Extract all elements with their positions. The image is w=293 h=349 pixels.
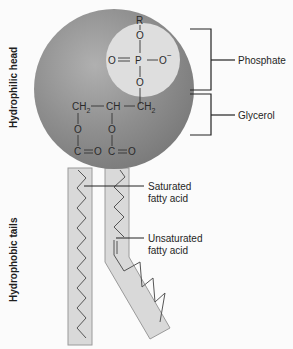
r-group: R [136, 15, 143, 26]
phospholipid-diagram: R O O P O − O CH2 CH CH2 O O C O C O Pho… [0, 0, 293, 349]
phosphate-bracket [190, 29, 235, 90]
oxygen-upper: O [136, 30, 144, 41]
ester-oxygen-2: O [108, 124, 116, 135]
glycerol-label: Glycerol [238, 110, 275, 121]
carbonyl-o-left: O [94, 146, 102, 157]
glycerol-c2: CH [106, 101, 120, 112]
saturated-label-line2: fatty acid [148, 193, 188, 204]
oxygen-charged: O [159, 55, 167, 66]
negative-charge: − [167, 51, 172, 60]
saturated-tail [68, 168, 92, 345]
oxygen-double-bond: O [108, 55, 116, 66]
unsaturated-label-line1: Unsaturated [148, 233, 202, 244]
phosphorus: P [135, 55, 142, 66]
carbonyl-o-right: O [128, 146, 136, 157]
ester-oxygen-1: O [74, 124, 82, 135]
glycerol-bracket [190, 94, 235, 135]
carbonyl-c-left: C [74, 146, 81, 157]
hydrophobic-tails-label: Hydrophobic tails [8, 217, 19, 302]
hydrophilic-head-circle [34, 9, 194, 169]
phosphate-label: Phosphate [238, 55, 286, 66]
oxygen-lower: O [136, 77, 144, 88]
saturated-label-line1: Saturated [148, 181, 191, 192]
carbonyl-c-right: C [108, 146, 115, 157]
unsaturated-label-line2: fatty acid [148, 245, 188, 256]
hydrophilic-head-label: Hydrophilic head [8, 47, 19, 128]
